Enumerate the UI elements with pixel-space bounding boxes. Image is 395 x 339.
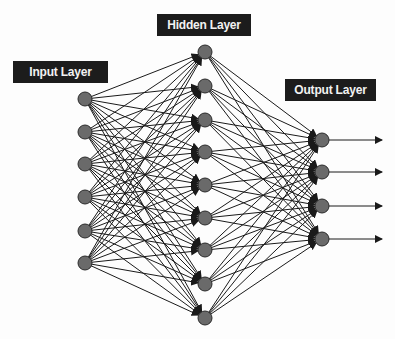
connection-edge [205, 243, 316, 318]
hidden-neuron [198, 113, 212, 127]
output-neuron [315, 199, 329, 213]
hidden-neuron [198, 178, 212, 192]
connection-edge [205, 209, 315, 251]
connection-edge [85, 90, 199, 164]
neural-network-diagram: Input Layer Hidden Layer Output Layer [0, 0, 395, 339]
connection-edge [85, 132, 200, 245]
connection-edge [85, 92, 201, 263]
input-neuron [78, 125, 92, 139]
input-neuron [78, 190, 92, 204]
connection-edge [205, 86, 317, 201]
hidden-neuron [198, 243, 212, 257]
input-neuron [78, 224, 92, 238]
connection-edge [205, 145, 318, 284]
connection-edge [205, 178, 318, 319]
connection-edge [205, 211, 317, 318]
output-neuron [315, 232, 329, 246]
output-arrows [329, 140, 382, 239]
connection-edge [205, 146, 318, 318]
connection-edge [85, 121, 198, 132]
output-neuron [315, 165, 329, 179]
input-neuron [78, 157, 92, 171]
connection-edge [85, 89, 199, 133]
hidden-neuron [198, 311, 212, 325]
hidden-neuron [198, 45, 212, 59]
connection-edge [85, 263, 199, 315]
hidden-neuron [198, 211, 212, 225]
hidden-neuron [198, 79, 212, 93]
connection-edge [205, 242, 316, 285]
output-layer-label: Output Layer [285, 79, 376, 101]
network-graph [0, 0, 395, 339]
input-layer-label: Input Layer [13, 61, 108, 83]
hidden-neuron [198, 145, 212, 159]
connection-edge [85, 263, 198, 283]
hidden-layer-label: Hidden Layer [157, 14, 251, 36]
connection-edge [85, 125, 201, 263]
connection-edge [205, 52, 317, 167]
output-neuron [315, 133, 329, 147]
hidden-neuron [198, 277, 212, 291]
connection-edge [205, 176, 316, 250]
connection-edge [85, 58, 202, 263]
connection-edge [85, 231, 199, 314]
input-neuron [78, 256, 92, 270]
input-neuron [78, 92, 92, 106]
